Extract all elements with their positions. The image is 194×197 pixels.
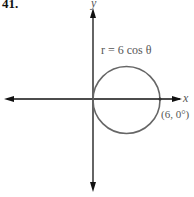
curve-equation-label: r = 6 cos θ [101, 43, 152, 58]
polar-graph [0, 0, 194, 197]
y-axis-label: y [91, 0, 96, 11]
point-marker [158, 97, 161, 100]
polar-curve [93, 67, 160, 134]
x-axis-label: x [183, 91, 188, 106]
point-label: (6, 0°) [161, 108, 189, 120]
